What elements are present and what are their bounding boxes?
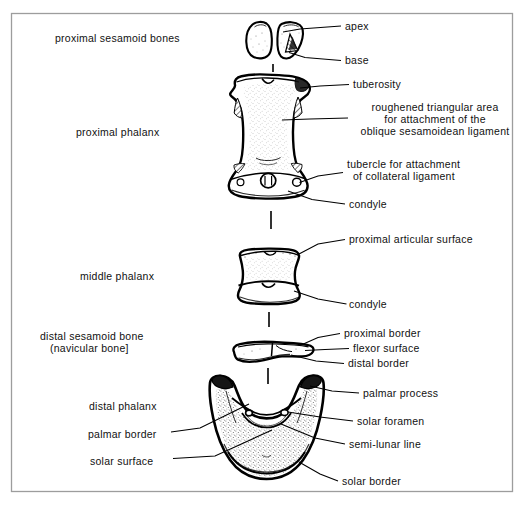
label-palmar-process: palmar process xyxy=(363,387,438,400)
leader-proximal-articular-surface xyxy=(299,240,345,255)
label-proximal-border: proximal border xyxy=(344,327,421,340)
label-tuberosity: tuberosity xyxy=(353,78,401,91)
leader-base xyxy=(289,53,341,61)
label-distal-border: distal border xyxy=(348,357,409,370)
label-solar-surface: solar surface xyxy=(90,455,153,468)
solar-foramen-left xyxy=(246,410,253,416)
label-roughened-triangular-area-line3: oblique sesamoidean ligament xyxy=(346,125,524,138)
leader-solar-border xyxy=(299,462,338,481)
solar-foramen-right xyxy=(281,410,288,416)
label-tubercle-collateral-line1: tubercle for attachment xyxy=(347,158,460,171)
label-condyle-proximal: condyle xyxy=(349,198,387,211)
label-solar-border: solar border xyxy=(342,475,401,488)
distal-phalanx-bone xyxy=(210,376,324,479)
label-solar-foramen: solar foramen xyxy=(357,415,424,428)
leader-condyle-middle xyxy=(294,291,347,304)
middle-phalanx-bone xyxy=(238,249,300,304)
label-condyle-middle: condyle xyxy=(349,298,387,311)
label-proximal-phalanx: proximal phalanx xyxy=(76,126,159,139)
proximal-phalanx-bone xyxy=(229,74,310,198)
label-base: base xyxy=(345,54,369,67)
bone-diagram-svg xyxy=(0,0,530,509)
label-navicular-bone: (navicular bone] xyxy=(50,342,129,355)
label-apex: apex xyxy=(345,20,369,33)
label-middle-phalanx: middle phalanx xyxy=(80,270,154,283)
label-flexor-surface: flexor surface xyxy=(353,342,420,355)
label-proximal-sesamoid-bones: proximal sesamoid bones xyxy=(55,32,180,45)
label-tubercle-collateral-line2: of collateral ligament xyxy=(353,170,455,183)
label-semi-lunar-line: semi-lunar line xyxy=(349,438,421,451)
label-proximal-articular-surface: proximal articular surface xyxy=(349,233,473,246)
label-distal-phalanx: distal phalanx xyxy=(89,400,157,413)
label-roughened-triangular-area-line2: for attachment of the xyxy=(351,113,519,126)
anatomical-figure: proximal sesamoid bones proximal phalanx… xyxy=(0,0,530,509)
label-roughened-triangular-area-line1: roughened triangular area xyxy=(351,101,519,114)
label-distal-sesamoid-bone: distal sesamoid bone xyxy=(40,330,144,343)
label-palmar-border: palmar border xyxy=(88,428,157,441)
proximal-sesamoid-left xyxy=(246,22,272,58)
